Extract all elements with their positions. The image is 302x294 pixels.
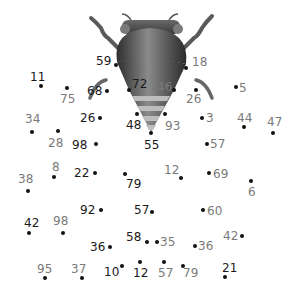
- dot-point[interactable]: [234, 85, 238, 89]
- dot-point[interactable]: [39, 84, 43, 88]
- dot-label: 60: [207, 205, 222, 217]
- dot-point[interactable]: [135, 112, 139, 116]
- dot-point[interactable]: [127, 88, 131, 92]
- dot-point[interactable]: [223, 275, 227, 279]
- dot-point[interactable]: [99, 208, 103, 212]
- dot-point[interactable]: [108, 245, 112, 249]
- dot-label: 18: [192, 56, 207, 68]
- dot-label: 36: [90, 241, 105, 253]
- dot-label: 59: [96, 55, 111, 67]
- dot-point[interactable]: [114, 63, 118, 67]
- dot-label: 58: [126, 231, 141, 243]
- dot-label: 35: [160, 236, 175, 248]
- dot-point[interactable]: [138, 260, 142, 264]
- dot-label: 22: [74, 167, 89, 179]
- dot-label: 57: [210, 138, 225, 150]
- dot-point[interactable]: [105, 89, 109, 93]
- dot-label: 12: [133, 267, 148, 279]
- dot-label: 79: [126, 178, 141, 190]
- dot-label: 98: [72, 139, 87, 151]
- dot-point[interactable]: [201, 208, 205, 212]
- dot-label: 34: [25, 113, 40, 125]
- dot-label: 21: [222, 262, 237, 274]
- dot-label: 26: [186, 93, 201, 105]
- dot-label: 36: [198, 240, 213, 252]
- dot-label: 79: [183, 267, 198, 279]
- dot-label: 44: [237, 112, 252, 124]
- dot-point[interactable]: [43, 276, 47, 280]
- dot-point[interactable]: [93, 171, 97, 175]
- dot-label: 3: [206, 112, 214, 124]
- dot-label: 46: [157, 81, 172, 93]
- dot-point[interactable]: [163, 112, 167, 116]
- dot-point[interactable]: [155, 240, 159, 244]
- dot-label: 38: [18, 173, 33, 185]
- dot-point[interactable]: [162, 260, 166, 264]
- dot-point[interactable]: [123, 172, 127, 176]
- dot-label: 93: [165, 120, 180, 132]
- dot-label: 55: [144, 139, 159, 151]
- dot-point[interactable]: [240, 234, 244, 238]
- dot-label: 26: [80, 112, 95, 124]
- dot-point[interactable]: [98, 116, 102, 120]
- dot-point[interactable]: [172, 88, 176, 92]
- dot-point[interactable]: [205, 142, 209, 146]
- dot-label: 28: [48, 137, 63, 149]
- dot-label: 6: [248, 186, 256, 198]
- dot-point[interactable]: [271, 131, 275, 135]
- dot-point[interactable]: [179, 176, 183, 180]
- dot-label: 68: [87, 85, 102, 97]
- dot-point[interactable]: [61, 231, 65, 235]
- dot-label: 72: [132, 78, 147, 90]
- dot-point[interactable]: [52, 175, 56, 179]
- dot-label: 10: [104, 266, 119, 278]
- dot-label: 92: [80, 204, 95, 216]
- dot-point[interactable]: [80, 276, 84, 280]
- dot-label: 57: [158, 267, 173, 279]
- dot-label: 5: [239, 82, 247, 94]
- dot-point[interactable]: [65, 86, 69, 90]
- dot-point[interactable]: [200, 116, 204, 120]
- dot-label: 11: [30, 71, 45, 83]
- dot-label: 48: [126, 119, 141, 131]
- dot-label: 37: [71, 263, 86, 275]
- dot-point[interactable]: [193, 244, 197, 248]
- dot-point[interactable]: [120, 264, 124, 268]
- dot-point[interactable]: [94, 142, 98, 146]
- dot-point[interactable]: [56, 129, 60, 133]
- dot-label: 69: [213, 168, 228, 180]
- dot-label: 47: [267, 116, 282, 128]
- dot-point[interactable]: [184, 66, 188, 70]
- dot-point[interactable]: [207, 171, 211, 175]
- dot-label: 42: [223, 230, 238, 242]
- dot-label: 8: [52, 161, 60, 173]
- dot-point[interactable]: [145, 240, 149, 244]
- dot-label: 12: [164, 164, 179, 176]
- dot-point[interactable]: [27, 231, 31, 235]
- dot-point[interactable]: [249, 179, 253, 183]
- dot-point[interactable]: [26, 189, 30, 193]
- dot-label: 95: [37, 263, 52, 275]
- dot-point[interactable]: [242, 125, 246, 129]
- dot-label: 98: [53, 215, 68, 227]
- dot-point[interactable]: [149, 131, 153, 135]
- dot-label: 75: [60, 93, 75, 105]
- dot-label: 57: [134, 204, 149, 216]
- dot-point[interactable]: [30, 130, 34, 134]
- dot-label: 42: [24, 217, 39, 229]
- dot-point[interactable]: [150, 210, 154, 214]
